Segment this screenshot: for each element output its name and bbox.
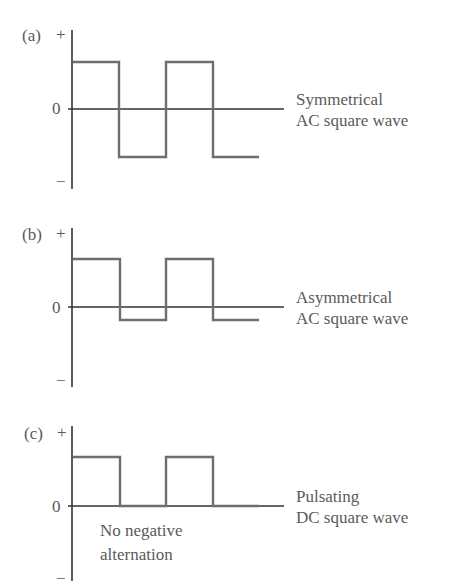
zero-label-a: 0 xyxy=(52,99,61,119)
waveform-asymmetrical-ac xyxy=(73,259,259,320)
panel-label-a: (a) xyxy=(22,26,41,46)
description-a-line1: Symmetrical xyxy=(296,89,408,110)
panel-label-b: (b) xyxy=(22,225,42,245)
minus-label-c: − xyxy=(56,569,66,581)
annotation-line2: alternation xyxy=(100,543,183,567)
description-b: Asymmetrical AC square wave xyxy=(296,287,408,329)
zero-label-b: 0 xyxy=(52,298,61,318)
description-c-line2: DC square wave xyxy=(296,507,408,528)
annotation-line1: No negative xyxy=(100,519,183,543)
description-b-line1: Asymmetrical xyxy=(296,287,408,308)
minus-label-b: − xyxy=(56,371,66,391)
panel-a xyxy=(68,30,284,189)
description-a-line2: AC square wave xyxy=(296,110,408,131)
minus-label-a: − xyxy=(56,172,66,192)
annotation-no-negative: No negative alternation xyxy=(100,519,183,567)
panel-label-c: (c) xyxy=(24,424,43,444)
plus-label-c: + xyxy=(57,423,67,443)
plus-label-b: + xyxy=(56,224,66,244)
description-a: Symmetrical AC square wave xyxy=(296,89,408,131)
waveform-pulsating-dc xyxy=(73,457,259,506)
description-c: Pulsating DC square wave xyxy=(296,486,408,528)
plus-label-a: + xyxy=(56,25,66,45)
description-b-line2: AC square wave xyxy=(296,308,408,329)
panel-b xyxy=(68,228,284,387)
zero-label-c: 0 xyxy=(52,497,61,517)
description-c-line1: Pulsating xyxy=(296,486,408,507)
